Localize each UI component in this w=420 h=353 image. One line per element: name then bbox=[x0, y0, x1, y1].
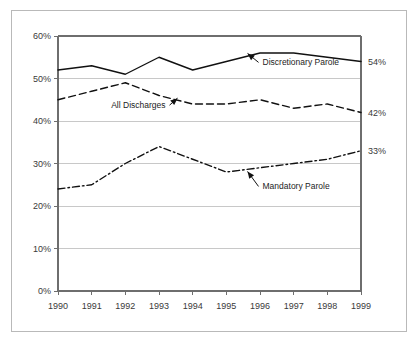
chart-frame: 0%10%20%30%40%50%60% 1990199119921993199… bbox=[11, 10, 407, 332]
end-label-all-discharges: 42% bbox=[368, 108, 386, 118]
line-chart: 0%10%20%30%40%50%60% 1990199119921993199… bbox=[12, 11, 408, 333]
end-label-discretionary-parole: 54% bbox=[368, 57, 386, 67]
y-axis-tick-labels: 0%10%20%30%40%50%60% bbox=[33, 31, 51, 296]
x-tick-label-1991: 1991 bbox=[82, 301, 102, 311]
annotation-mandatory-parole: Mandatory Parole bbox=[248, 171, 330, 191]
y-tick-label-40%: 40% bbox=[33, 116, 51, 126]
y-tick-label-10%: 10% bbox=[33, 244, 51, 254]
x-axis-tick-labels: 1990199119921993199419951996199719981999 bbox=[48, 301, 371, 311]
y-tick-label-30%: 30% bbox=[33, 159, 51, 169]
y-tick-label-20%: 20% bbox=[33, 201, 51, 211]
x-tick-label-1994: 1994 bbox=[183, 301, 203, 311]
x-tick-label-1992: 1992 bbox=[115, 301, 135, 311]
y-tick-label-60%: 60% bbox=[33, 31, 51, 41]
x-tick-label-1990: 1990 bbox=[48, 301, 68, 311]
end-label-mandatory-parole: 33% bbox=[368, 146, 386, 156]
annotation-label-all-discharges: All Discharges bbox=[111, 100, 165, 110]
y-tick-label-50%: 50% bbox=[33, 74, 51, 84]
series-annotations: Discretionary ParoleAll DischargesMandat… bbox=[111, 53, 339, 191]
annotation-label-discretionary-parole: Discretionary Parole bbox=[263, 57, 340, 67]
annotation-arrowhead-mandatory-parole bbox=[248, 171, 255, 178]
x-tick-label-1993: 1993 bbox=[149, 301, 169, 311]
x-tick-label-1998: 1998 bbox=[317, 301, 337, 311]
x-tick-label-1996: 1996 bbox=[250, 301, 270, 311]
annotation-discretionary-parole: Discretionary Parole bbox=[248, 53, 340, 67]
y-tick-label-0%: 0% bbox=[38, 286, 51, 296]
x-tick-label-1995: 1995 bbox=[216, 301, 236, 311]
series-end-labels: 54%42%33% bbox=[368, 57, 386, 156]
gridlines-group bbox=[58, 36, 361, 249]
annotation-all-discharges: All Discharges bbox=[111, 98, 177, 110]
series-line-all-discharges bbox=[58, 83, 361, 113]
annotation-label-mandatory-parole: Mandatory Parole bbox=[263, 181, 330, 191]
x-tick-label-1999: 1999 bbox=[351, 301, 371, 311]
x-tick-label-1997: 1997 bbox=[284, 301, 304, 311]
